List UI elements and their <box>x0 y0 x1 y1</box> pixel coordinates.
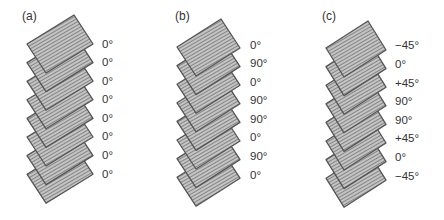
ply-angle-label: 0° <box>395 58 406 70</box>
ply-angle-label: 90° <box>250 57 267 69</box>
ply-angle-label: 0° <box>250 39 261 51</box>
ply-angle-label: 90° <box>395 114 412 126</box>
ply-angle-label: 0° <box>102 38 113 50</box>
ply-angle-label: 0° <box>102 149 113 161</box>
panel-a: (a) 0° 0° 0° 0° 0° 0° 0° 0° <box>0 0 148 220</box>
ply-angle-label: 0° <box>395 151 406 163</box>
ply-angle-label: 0° <box>250 131 261 143</box>
ply-stack-b <box>148 0 296 220</box>
ply-angle-label: 0° <box>102 130 113 142</box>
panel-b: (b) 0° 90° 0° 90° 90° 0° 90° 0° <box>148 0 296 220</box>
ply-angle-label: 0° <box>102 112 113 124</box>
panel-c: (c) −45° 0° +45° 90° 90° +45° 0° −45° <box>296 0 444 220</box>
ply-angle-label: 90° <box>395 95 412 107</box>
ply-angle-label: 90° <box>250 94 267 106</box>
ply-angle-label: 0° <box>102 93 113 105</box>
ply-angle-label: 0° <box>102 168 113 180</box>
ply-angle-label: 0° <box>250 76 261 88</box>
ply-angle-label: 0° <box>250 169 261 181</box>
ply-stack-a <box>0 0 148 220</box>
ply-angle-label: 0° <box>102 56 113 68</box>
ply-angle-label: +45° <box>395 77 419 89</box>
ply-angle-label: 90° <box>250 113 267 125</box>
ply-angle-label: −45° <box>395 39 419 51</box>
ply-angle-label: +45° <box>395 132 419 144</box>
ply-angle-label: 90° <box>250 150 267 162</box>
ply-angle-label: −45° <box>395 170 419 182</box>
ply-angle-label: 0° <box>102 75 113 87</box>
ply-stack-c <box>296 0 444 220</box>
